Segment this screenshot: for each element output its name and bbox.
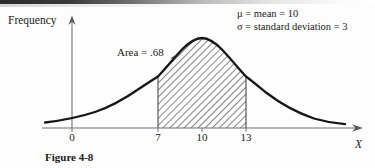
figure-caption: Figure 4-8 <box>45 151 93 163</box>
legend-mean: μ = mean = 10 <box>237 8 348 21</box>
x-axis-label: X <box>355 139 362 151</box>
y-axis <box>68 16 75 129</box>
x-tick-label-10: 10 <box>191 132 213 143</box>
figure-container: Frequency Area = .68 μ = mean = 10 σ = s… <box>0 0 375 168</box>
area-annotation: Area = .68 <box>117 47 164 58</box>
shaded-area-region <box>156 34 248 129</box>
y-axis-label: Frequency <box>8 15 57 27</box>
legend: μ = mean = 10 σ = standard deviation = 3 <box>237 8 348 33</box>
x-tick-label-7: 7 <box>147 132 169 143</box>
x-tick-label-13: 13 <box>235 132 257 143</box>
legend-standard-deviation: σ = standard deviation = 3 <box>237 21 348 34</box>
x-tick-label-0: 0 <box>61 132 83 143</box>
